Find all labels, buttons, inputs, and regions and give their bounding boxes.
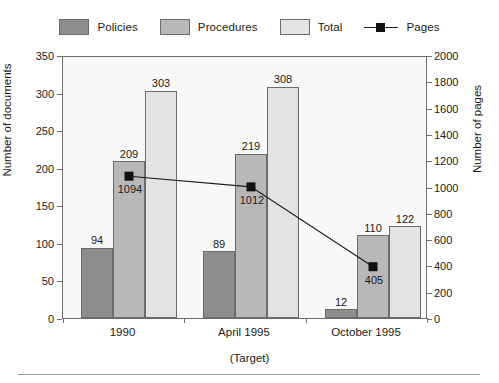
plot-area: 94 209 303 89 219 308 12 110 122 1094 10…	[62, 56, 427, 319]
legend-item-procedures: Procedures	[160, 19, 258, 35]
y-tick-left-250: 250	[36, 126, 54, 137]
y-tick-left-200: 200	[36, 163, 54, 174]
x-category-1990: 1990	[62, 326, 183, 338]
y-tick-left-100: 100	[36, 238, 54, 249]
legend-label-pages: Pages	[406, 21, 439, 33]
y-tick-left-50: 50	[42, 276, 54, 287]
y-axis-labels-right: 2000 1800 1600 1400 1200 1000 800 600 40…	[434, 56, 474, 319]
x-category-october-1995: October 1995	[305, 326, 427, 338]
legend-item-policies: Policies	[59, 19, 137, 35]
y-tick-right-800: 800	[434, 208, 452, 219]
legend-swatch-procedures	[160, 19, 190, 35]
pages-label-october-1995: 405	[352, 274, 396, 286]
pages-label-1990: 1094	[108, 183, 152, 195]
pages-marker-april-1995	[247, 182, 256, 191]
y-axis-title-left: Number of documents	[1, 50, 13, 190]
y-tick-right-2000: 2000	[434, 51, 458, 62]
x-axis-target-note: (Target)	[0, 352, 499, 364]
y-tick-right-1600: 1600	[434, 103, 458, 114]
plot-inner: 94 209 303 89 219 308 12 110 122 1094 10…	[63, 57, 426, 318]
x-tickmark-2	[306, 318, 307, 323]
y-axis-labels-left: 350 300 250 200 150 100 50 0	[20, 56, 54, 319]
y-tick-right-1400: 1400	[434, 129, 458, 140]
legend-item-total: Total	[280, 19, 343, 35]
legend-swatch-policies	[59, 19, 89, 35]
y-tick-right-200: 200	[434, 287, 452, 298]
legend-item-pages: Pages	[364, 19, 439, 35]
y-tick-right-400: 400	[434, 261, 452, 272]
y-tick-left-300: 300	[36, 88, 54, 99]
legend-label-procedures: Procedures	[198, 21, 258, 33]
x-category-april-1995: April 1995	[183, 326, 305, 338]
y-tick-left-150: 150	[36, 201, 54, 212]
y-tick-right-600: 600	[434, 235, 452, 246]
legend-label-total: Total	[318, 21, 343, 33]
footer-divider	[18, 374, 480, 375]
y-tick-right-1000: 1000	[434, 182, 458, 193]
legend-marker-pages	[364, 19, 398, 35]
y-tick-right-0: 0	[434, 314, 440, 325]
x-tickmark-3	[427, 318, 428, 323]
y-tick-right-1800: 1800	[434, 77, 458, 88]
legend-label-policies: Policies	[97, 21, 137, 33]
y-tick-left-350: 350	[36, 51, 54, 62]
y-tick-right-1200: 1200	[434, 156, 458, 167]
pages-marker-october-1995	[369, 262, 378, 271]
legend-swatch-total	[280, 19, 310, 35]
x-tickmark-1	[184, 318, 185, 323]
pages-marker-1990	[125, 172, 134, 181]
pages-label-april-1995: 1012	[230, 194, 274, 206]
x-tickmark-0	[63, 318, 64, 323]
chart-legend: Policies Procedures Total Pages	[0, 14, 499, 40]
y-tick-left-0: 0	[48, 313, 54, 324]
